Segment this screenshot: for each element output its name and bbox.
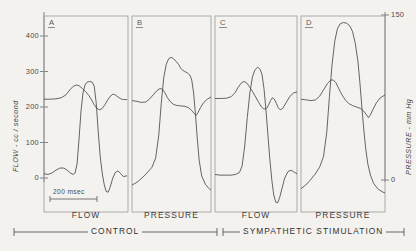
left-tick-label: 100 bbox=[14, 138, 39, 147]
left-tick-label: 200 bbox=[14, 102, 39, 111]
right-tick-label: 0 bbox=[391, 175, 413, 184]
left-tick-label: 300 bbox=[14, 67, 39, 76]
group-caption-0: CONTROL bbox=[88, 226, 142, 236]
panel-caption-a: FLOW bbox=[44, 210, 128, 220]
panel-letter-b: B bbox=[136, 19, 143, 28]
left-tick-label: 400 bbox=[14, 31, 39, 40]
panel-letter-c: C bbox=[219, 19, 227, 28]
right-axis-label: PRESSURE - mm Hg bbox=[404, 99, 413, 175]
panel-caption-c: FLOW bbox=[215, 210, 297, 220]
panel-letter-d: D bbox=[305, 19, 313, 28]
panel-caption-d: PRESSURE bbox=[301, 210, 385, 220]
left-tick-label: 0 bbox=[14, 173, 39, 182]
group-caption-1: SYMPATHETIC STIMULATION bbox=[240, 226, 386, 236]
left-axis-label: FLOW - cc / second bbox=[11, 100, 20, 172]
right-tick-label: 150 bbox=[391, 10, 413, 19]
scalebar-label: 200 msec bbox=[53, 188, 85, 195]
panel-caption-b: PRESSURE bbox=[132, 210, 211, 220]
panel-letter-a: A bbox=[48, 19, 55, 28]
